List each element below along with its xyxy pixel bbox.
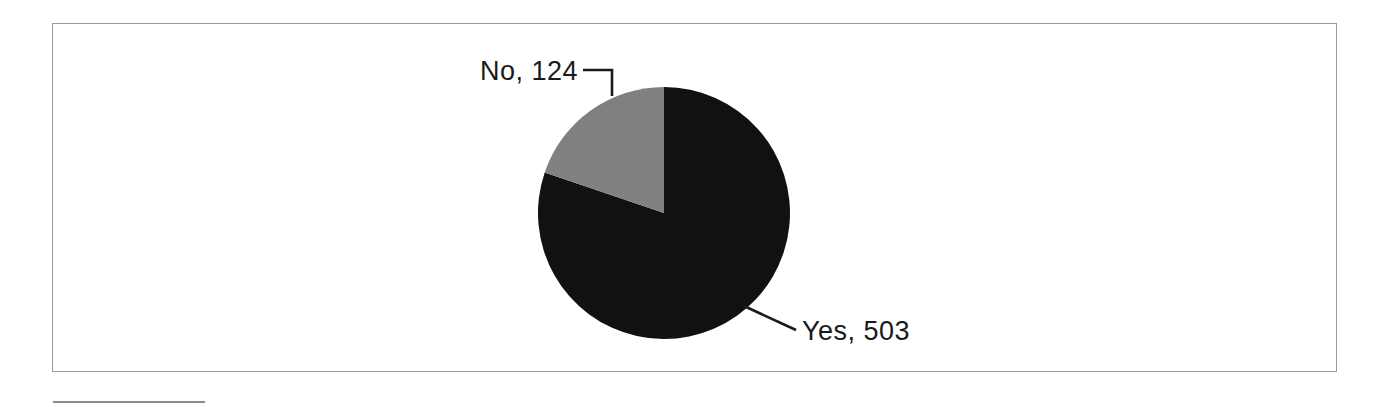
pie-chart-figure: No, 124 Yes, 503 bbox=[0, 0, 1380, 407]
chart-frame-border bbox=[52, 23, 1337, 372]
bottom-divider-rule bbox=[53, 401, 205, 403]
